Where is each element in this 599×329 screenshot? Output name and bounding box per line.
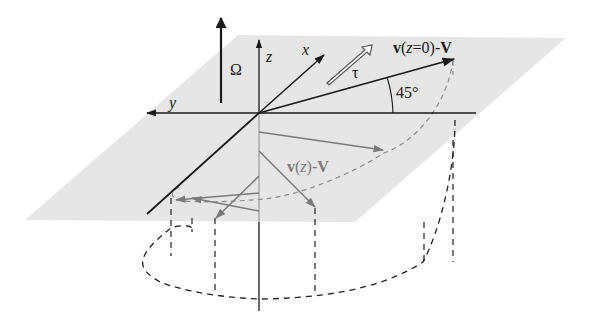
surface-velocity-label: v(z=0)-V	[393, 39, 452, 57]
horizontal-plane	[25, 35, 566, 222]
angle-label: 45°	[396, 84, 418, 101]
x-axis-label: x	[301, 41, 309, 58]
depth-velocity-label: v(z)-V	[287, 158, 329, 176]
tau-label: τ	[352, 64, 359, 81]
z-axis-label: z	[265, 48, 273, 65]
y-axis-label: y	[167, 94, 177, 112]
omega-label: Ω	[230, 61, 242, 78]
ekman-spiral-diagram: Ω z x y τ v(z=0)-V 45° v(z)-V	[0, 0, 599, 329]
